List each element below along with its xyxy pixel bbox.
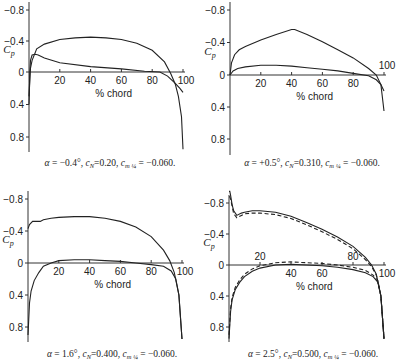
panel-4: −0.8−0.400.40.820406080100% chordCpα = 2… <box>203 191 395 360</box>
x-tick-label: 40 <box>285 268 297 279</box>
y-tick-label: 0.4 <box>10 99 24 110</box>
panel-caption: α = +0.5°, cN=0.310, cm ¼ = −0.060. <box>244 158 380 169</box>
y-tick-label: −0.8 <box>3 194 23 205</box>
y-tick-label: 0 <box>18 67 24 78</box>
panel-caption: α = 1.6°, cN=0.400, cm ¼ = −0.060. <box>47 349 177 360</box>
x-tick-label: 80 <box>348 78 360 89</box>
x-tick-label: 20 <box>255 78 267 89</box>
x-tick-label: 100 <box>379 60 396 71</box>
x-tick-label: 60 <box>316 268 328 279</box>
panel-caption: α = −0.4°, cN=0.20, cm ¼ = −0.060. <box>45 158 176 169</box>
figure-canvas: −0.8−0.400.40.820406080100% chordCpα = −… <box>0 0 399 362</box>
lower-surface-curve <box>230 65 384 91</box>
x-tick-label: 40 <box>84 266 96 277</box>
x-axis-label: % chord <box>296 281 333 292</box>
y-tick-label: 0.8 <box>210 322 224 333</box>
x-tick-label: 60 <box>115 266 127 277</box>
x-tick-label: 20 <box>53 266 65 277</box>
panel-3: −0.8−0.400.40.820406080100% chordCpα = 1… <box>2 191 193 360</box>
y-tick-label: −0.8 <box>204 198 224 209</box>
x-axis-label: % chord <box>94 279 131 290</box>
y-tick-label: 0 <box>219 70 225 81</box>
y-tick-label: 0.8 <box>211 134 225 145</box>
y-tick-label: 0.8 <box>10 132 24 143</box>
x-tick-label: 80 <box>347 251 359 262</box>
pressure-distribution-figure: −0.8−0.400.40.820406080100% chordCpα = −… <box>0 0 399 362</box>
y-tick-label: 0.4 <box>211 102 225 113</box>
x-tick-label: 100 <box>177 266 194 277</box>
lower-surface-dashed-curve <box>229 262 384 339</box>
x-tick-label: 40 <box>85 75 97 86</box>
panel-1: −0.8−0.400.40.820406080100% chordCpα = −… <box>3 2 194 169</box>
y-tick-label: −0.8 <box>4 5 24 16</box>
x-axis-label: % chord <box>296 91 333 102</box>
lower-surface-solid-curve <box>229 264 384 338</box>
y-tick-label: 0.4 <box>9 290 23 301</box>
x-tick-label: 80 <box>146 266 158 277</box>
x-tick-label: 80 <box>147 75 159 86</box>
lower-surface-curve <box>28 260 182 339</box>
x-tick-label: 40 <box>286 78 298 89</box>
x-tick-label: 100 <box>379 268 396 279</box>
x-tick-label: 20 <box>54 75 66 86</box>
y-tick-label: 0.4 <box>210 291 224 302</box>
y-tick-label: 0.8 <box>9 322 23 333</box>
upper-surface-dashed-curve <box>229 197 384 339</box>
x-tick-label: 20 <box>254 251 266 262</box>
y-tick-label: 0 <box>218 260 224 271</box>
x-axis-label: % chord <box>95 88 132 99</box>
x-tick-label: 60 <box>317 78 329 89</box>
x-tick-label: 60 <box>116 75 128 86</box>
panel-2: −0.8−0.400.40.820406080100% chordCpα = +… <box>204 2 395 169</box>
y-tick-label: 0 <box>17 258 23 269</box>
y-tick-label: −0.8 <box>205 5 225 16</box>
upper-surface-curve <box>28 217 182 339</box>
x-tick-label: 100 <box>178 75 195 86</box>
panel-caption: α = 2.5°, cN=0.500, cm ¼ = −0.060. <box>248 349 378 360</box>
